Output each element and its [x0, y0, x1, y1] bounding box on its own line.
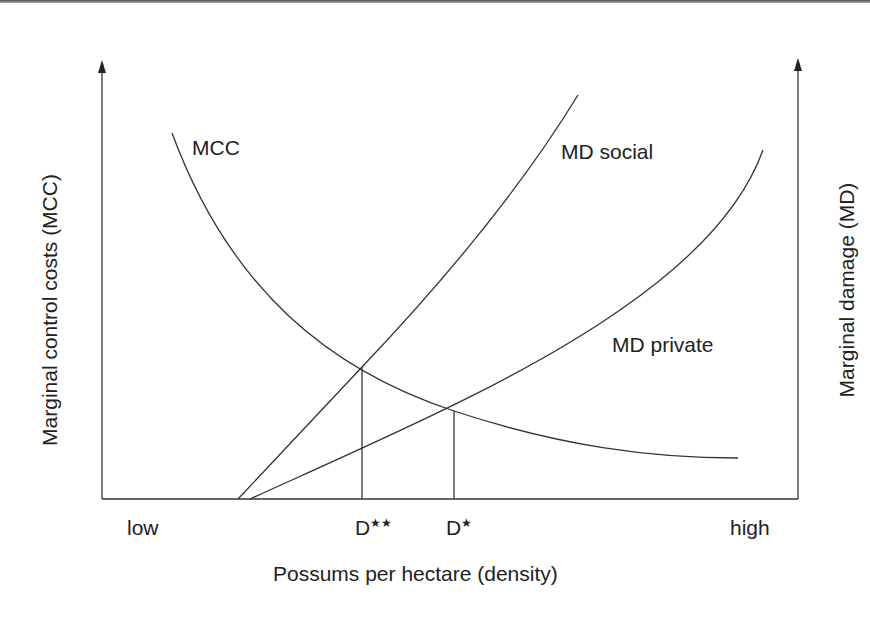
md-private-curve: [250, 150, 763, 499]
md-social-curve: [238, 95, 578, 499]
right-axis-arrow-icon: [794, 58, 802, 71]
tick-d-double-star: D★★: [355, 516, 392, 540]
double-star-icon: ★★: [370, 516, 392, 530]
tick-high: high: [730, 516, 770, 540]
tick-low: low: [127, 516, 159, 540]
tick-d-star: D★: [446, 516, 472, 540]
y-axis-label-left: Marginal control costs (MCC): [38, 165, 62, 455]
star-icon: ★: [461, 516, 472, 530]
label-mcc: MCC: [192, 136, 240, 160]
x-axis-label: Possums per hectare (density): [273, 562, 558, 586]
label-md-private: MD private: [612, 333, 714, 357]
label-md-social: MD social: [561, 140, 653, 164]
d-double-star-letter: D: [355, 516, 370, 539]
d-star-letter: D: [446, 516, 461, 539]
mcc-curve: [172, 133, 738, 458]
left-axis-arrow-icon: [98, 60, 106, 73]
y-axis-label-right: Marginal damage (MD): [835, 170, 859, 410]
